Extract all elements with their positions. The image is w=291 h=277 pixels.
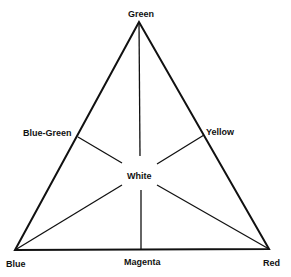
median-bluegreen [78, 137, 122, 163]
median-green-upper [139, 22, 140, 156]
triangle-svg [0, 0, 291, 277]
label-yellow: Yellow [206, 127, 234, 137]
label-red: Red [263, 258, 280, 268]
label-blue: Blue [6, 259, 26, 269]
label-green: Green [128, 9, 154, 19]
color-triangle-diagram: Green Blue-Green Yellow White Blue Magen… [0, 0, 291, 277]
median-yellow [157, 135, 204, 164]
median-blue [15, 185, 122, 250]
label-white: White [127, 171, 152, 181]
label-blue-green: Blue-Green [23, 128, 72, 138]
median-red [157, 185, 269, 249]
label-magenta: Magenta [124, 257, 161, 267]
